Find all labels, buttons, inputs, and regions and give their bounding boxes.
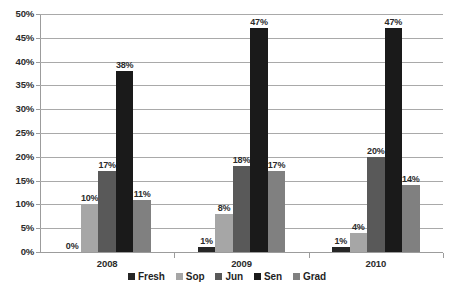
- y-axis-tick-label: 30%: [0, 103, 40, 114]
- x-axis-category-label: 2010: [309, 258, 443, 269]
- y-axis-tick-label: 40%: [0, 56, 40, 67]
- bar-slot: 11%: [133, 14, 151, 252]
- y-axis-tick-label: 0%: [0, 246, 40, 257]
- legend-item[interactable]: Grad: [293, 271, 326, 282]
- legend-item[interactable]: Fresh: [128, 271, 165, 282]
- legend-label: Sen: [264, 271, 282, 282]
- bar[interactable]: [198, 247, 216, 252]
- bar-value-label: 38%: [116, 60, 133, 70]
- legend-label: Jun: [225, 271, 242, 282]
- bar-value-label: 47%: [385, 17, 402, 27]
- bar[interactable]: [133, 200, 151, 252]
- bar-value-label: 4%: [352, 222, 365, 232]
- y-axis-tick-label: 50%: [0, 8, 40, 19]
- legend-label: Sop: [186, 271, 205, 282]
- bar-value-label: 8%: [218, 203, 231, 213]
- bar-slot: 47%: [385, 14, 403, 252]
- bar-value-label: 1%: [335, 236, 348, 246]
- bar[interactable]: [367, 157, 385, 252]
- legend-swatch-icon: [128, 273, 135, 280]
- y-axis-tick-label: 20%: [0, 151, 40, 162]
- bar-slot: 38%: [116, 14, 134, 252]
- gridline: [40, 252, 443, 253]
- bar[interactable]: [81, 204, 99, 252]
- bar[interactable]: [402, 185, 420, 252]
- bar-value-label: 14%: [402, 174, 419, 184]
- bar-value-label: 18%: [233, 155, 250, 165]
- bar-value-label: 20%: [367, 146, 384, 156]
- bar[interactable]: [332, 247, 350, 252]
- bar[interactable]: [250, 28, 268, 252]
- y-axis-tick-label: 25%: [0, 127, 40, 138]
- bar-value-label: 0%: [66, 241, 79, 251]
- bar[interactable]: [116, 71, 134, 252]
- bar-value-label: 10%: [81, 193, 98, 203]
- bar-slot: 20%: [367, 14, 385, 252]
- bar[interactable]: [233, 166, 251, 252]
- x-axis-tick-mark: [443, 253, 444, 258]
- y-axis-tick-label: 10%: [0, 198, 40, 209]
- legend-label: Grad: [303, 271, 326, 282]
- bar[interactable]: [385, 28, 403, 252]
- bar-slot: 4%: [350, 14, 368, 252]
- bar-slot: 14%: [402, 14, 420, 252]
- bar-value-label: 11%: [134, 189, 151, 199]
- bar-slot: 8%: [215, 14, 233, 252]
- legend-label: Fresh: [138, 271, 165, 282]
- legend-swatch-icon: [176, 273, 183, 280]
- bar[interactable]: [215, 214, 233, 252]
- legend-item[interactable]: Sen: [254, 271, 282, 282]
- bar-slot: 17%: [98, 14, 116, 252]
- bar-cluster: 1%8%18%47%17%: [198, 14, 286, 252]
- legend-item[interactable]: Sop: [176, 271, 205, 282]
- bar-value-label: 17%: [268, 160, 285, 170]
- bar-slot: 17%: [268, 14, 286, 252]
- bar-value-label: 47%: [250, 17, 267, 27]
- bar-slot: 0%: [63, 14, 81, 252]
- bar-value-label: 1%: [200, 236, 213, 246]
- bar[interactable]: [350, 233, 368, 252]
- legend-swatch-icon: [293, 273, 300, 280]
- chart-legend: FreshSopJunSenGrad: [0, 271, 454, 282]
- legend-swatch-icon: [254, 273, 261, 280]
- y-axis-tick-label: 15%: [0, 175, 40, 186]
- y-axis-tick-label: 35%: [0, 79, 40, 90]
- x-axis-category-label: 2009: [174, 258, 308, 269]
- y-axis-tick-label: 5%: [0, 222, 40, 233]
- bar[interactable]: [268, 171, 286, 252]
- bar-cluster: 1%4%20%47%14%: [332, 14, 420, 252]
- bar-slot: 47%: [250, 14, 268, 252]
- y-axis-tick-label: 45%: [0, 32, 40, 43]
- bar-cluster: 0%10%17%38%11%: [63, 14, 151, 252]
- bar-slot: 1%: [332, 14, 350, 252]
- bar-chart: 50%45%40%35%30%25%20%15%10%5%0% 0%10%17%…: [0, 0, 454, 296]
- x-axis-category-label: 2008: [40, 258, 174, 269]
- bar-slot: 1%: [198, 14, 216, 252]
- bar-slot: 18%: [233, 14, 251, 252]
- bar-slot: 10%: [81, 14, 99, 252]
- bar[interactable]: [98, 171, 116, 252]
- bar-value-label: 17%: [98, 160, 115, 170]
- legend-item[interactable]: Jun: [215, 271, 242, 282]
- legend-swatch-icon: [215, 273, 222, 280]
- plot-area: 0%10%17%38%11%1%8%18%47%17%1%4%20%47%14%: [40, 14, 443, 252]
